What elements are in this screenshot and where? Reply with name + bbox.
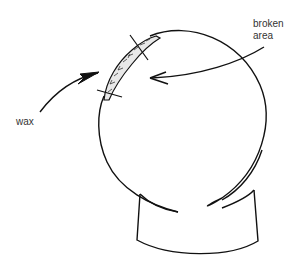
sphere-outline-top: [150, 31, 266, 206]
diagram-canvas: wax broken area: [0, 0, 299, 268]
sphere-bottom-left: [140, 194, 178, 212]
broken-area-label: broken area: [253, 18, 284, 42]
sphere-bottom-right: [222, 190, 254, 208]
broken-area-label-line2: area: [253, 30, 284, 42]
wax-label: wax: [16, 116, 34, 128]
broken-area-label-line1: broken: [253, 18, 284, 30]
wax-arrow-shaft: [40, 73, 98, 112]
sphere-outline: [99, 96, 178, 212]
broken-arrow-shaft: [152, 47, 264, 78]
wax-patch: [104, 36, 160, 100]
